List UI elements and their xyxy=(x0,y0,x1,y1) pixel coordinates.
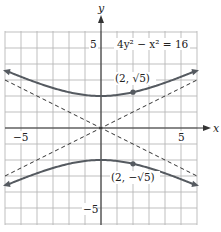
x-axis-label: x xyxy=(213,122,220,135)
equation-label: 4y² − x² = 16 xyxy=(117,38,189,50)
point-label-upper: (2, √5) xyxy=(115,72,150,84)
tick-label-x-neg5: −5 xyxy=(13,131,28,143)
x-axis-arrow-icon xyxy=(203,125,211,131)
curve-arrow-icon xyxy=(3,181,11,187)
y-axis-arrow-icon xyxy=(98,15,104,23)
hyperbola-chart: y x 4y² − x² = 16 5 −5 −5 5 (2, √5) (2, … xyxy=(0,0,221,232)
axes xyxy=(5,20,206,225)
point-lower xyxy=(130,161,135,166)
curve-arrow-icon xyxy=(191,181,199,187)
tick-label-x-5: 5 xyxy=(178,131,185,143)
tick-label-y-neg5: −5 xyxy=(83,203,98,215)
y-axis-label: y xyxy=(97,2,105,15)
curve-arrow-icon xyxy=(3,69,11,75)
curve-arrow-icon xyxy=(191,69,199,75)
tick-label-y-5: 5 xyxy=(90,38,97,50)
point-upper xyxy=(130,90,135,95)
point-label-lower: (2, −√5) xyxy=(111,171,155,183)
